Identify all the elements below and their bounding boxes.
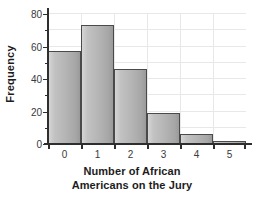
y-axis-title: Frequency xyxy=(0,0,20,148)
x-axis-title: Number of African Americans on the Jury xyxy=(0,164,264,192)
y-axis-tick-labels: 020406080 xyxy=(18,8,42,144)
x-axis-tick-label: 2 xyxy=(128,149,134,160)
plot-area xyxy=(48,14,246,144)
y-axis-line xyxy=(47,8,49,144)
bar xyxy=(48,51,81,144)
x-axis-title-line2: Americans on the Jury xyxy=(0,178,264,192)
x-axis-tick-label: 4 xyxy=(194,149,200,160)
bar xyxy=(147,113,180,144)
y-axis-tick-label: 80 xyxy=(31,9,42,20)
bar xyxy=(114,69,147,144)
x-axis-tick-label: 5 xyxy=(227,149,233,160)
x-axis-title-line1: Number of African xyxy=(0,164,264,178)
y-axis-tick-label: 20 xyxy=(31,106,42,117)
histogram-figure: Frequency 020406080 012345 Number of Afr… xyxy=(0,0,264,200)
y-axis-tick-label: 60 xyxy=(31,41,42,52)
x-axis-tick-labels: 012345 xyxy=(48,149,246,163)
gridline-vertical xyxy=(180,14,181,144)
y-axis-tick-label: 0 xyxy=(36,139,42,150)
y-axis-tick-label: 40 xyxy=(31,74,42,85)
x-axis-tick-label: 1 xyxy=(95,149,101,160)
x-axis-tick-label: 0 xyxy=(62,149,68,160)
gridline-vertical xyxy=(213,14,214,144)
y-axis-title-text: Frequency xyxy=(4,45,16,102)
x-axis-tick-label: 3 xyxy=(161,149,167,160)
bar xyxy=(81,25,114,144)
